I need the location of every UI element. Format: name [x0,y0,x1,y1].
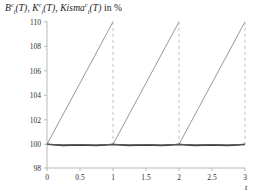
chart-figure: Bct(T), Kct(T), Kismact(T) in % 110 [0,0,259,194]
x-ticklabel-1-5: 1.5 [141,173,151,182]
ramp-segment-3 [179,22,245,145]
y-ticklabel-102: 102 [30,116,42,125]
x-ticklabel-0: 0 [45,173,49,182]
x-ticklabel-2-5: 2.5 [207,173,217,182]
x-axis-label: t [245,183,248,192]
y-tick-labels: 110 108 106 104 102 100 98 [30,18,42,173]
y-ticklabel-100: 100 [30,140,42,149]
flat-curve-tertiary [47,144,245,145]
ramp-segment-1 [47,22,113,145]
x-ticklabel-2: 2 [177,173,181,182]
x-ticklabel-1: 1 [111,173,115,182]
x-tick-labels: 0 0.5 1 1.5 2 2.5 3 [45,173,247,182]
y-ticklabel-106: 106 [30,67,42,76]
series-reset-drop [113,22,245,145]
ramp-segment-2 [113,22,179,145]
y-ticklabel-104: 104 [30,91,42,100]
series-flat-curves-at-100 [47,144,245,145]
y-ticklabel-98: 98 [34,164,42,173]
x-ticklabel-3: 3 [243,173,247,182]
y-ticklabel-110: 110 [30,18,41,27]
x-ticklabel-0-5: 0.5 [75,173,85,182]
plot-svg: 110 108 106 104 102 100 98 0 0.5 1 1.5 2… [0,0,259,194]
series-sawtooth-ramp [47,22,245,145]
y-ticklabel-108: 108 [30,42,42,51]
